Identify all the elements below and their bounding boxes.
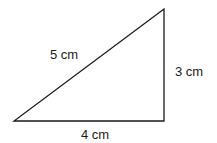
right-triangle: [14, 9, 164, 121]
triangle-diagram: 5 cm 3 cm 4 cm: [0, 0, 217, 143]
base-label: 4 cm: [81, 127, 109, 142]
hypotenuse-label: 5 cm: [50, 47, 78, 62]
vertical-side-label: 3 cm: [175, 64, 203, 79]
